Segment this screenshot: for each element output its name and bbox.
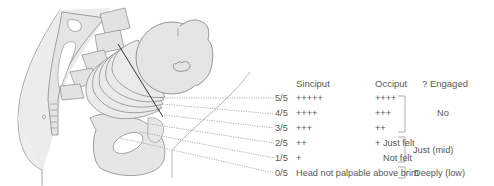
engaged-just: Just (mid) [413, 145, 453, 156]
occiput-value: + Just felt [375, 138, 415, 149]
header-engaged: ? Engaged [422, 78, 468, 89]
occiput-value: +++ [375, 108, 391, 119]
occiput-value: ++ [375, 123, 386, 134]
sinciput-value: Head not palpable above brim [296, 168, 419, 179]
header-occiput: Occiput [375, 78, 407, 89]
fifths-label: 4/5 [275, 108, 288, 119]
sinciput-value: ++ [296, 138, 307, 149]
sinciput-value: + [296, 153, 301, 164]
engaged-no: No [437, 108, 449, 119]
fifths-label: 1/5 [275, 153, 288, 164]
engagement-brackets [398, 96, 405, 178]
fifths-label: 0/5 [275, 168, 288, 179]
engaged-deeply: Deeply (low) [414, 168, 465, 179]
sinciput-value: +++ [296, 123, 312, 134]
sinciput-value: +++++ [296, 93, 323, 104]
fifths-label: 3/5 [275, 123, 288, 134]
occiput-value: ++++ [375, 93, 396, 104]
occiput-value: Not felt [383, 153, 412, 164]
sinciput-value: ++++ [296, 108, 317, 119]
fifths-label: 5/5 [275, 93, 288, 104]
pelvis-fetal-head-illustration [0, 0, 494, 186]
header-sinciput: Sinciput [296, 78, 330, 89]
fifths-label: 2/5 [275, 138, 288, 149]
